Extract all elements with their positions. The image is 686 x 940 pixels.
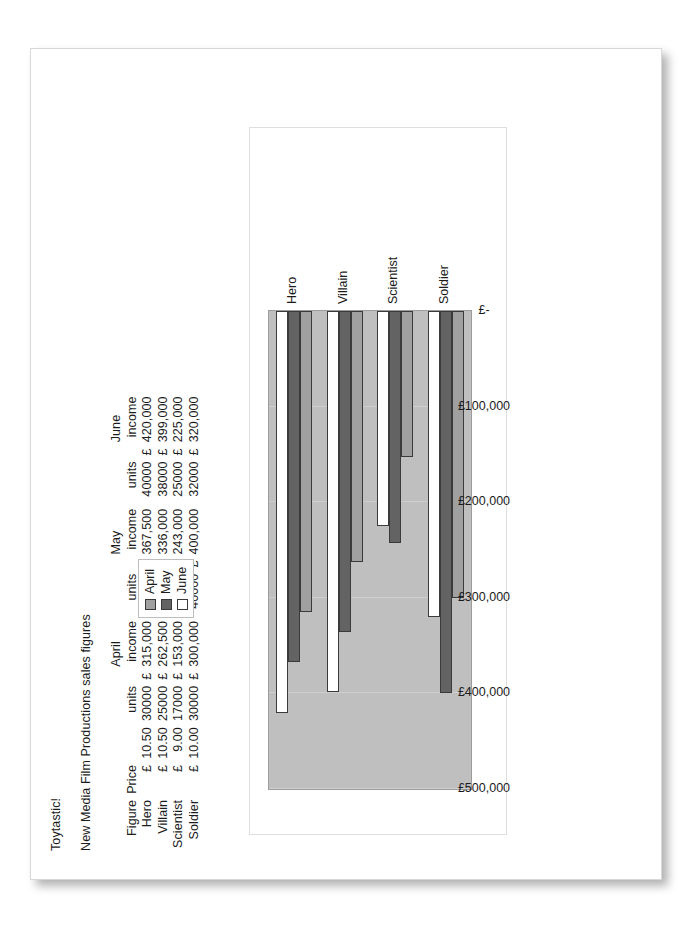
col-header-income-may: income [125, 506, 141, 558]
col-header-price: Price [125, 762, 141, 797]
axis-tick-label: £300,000 [444, 590, 524, 604]
cell-units-june: 38000 [156, 458, 172, 499]
legend-item-june[interactable]: June [175, 567, 189, 610]
cell-price-currency: £ [171, 762, 187, 797]
col-header-units-june: units [125, 458, 141, 499]
cell-income-june: 399,000 [156, 393, 172, 445]
cell-currency: £ [187, 445, 203, 458]
cell-income-june: 225,000 [171, 393, 187, 445]
cell-income-may: 367,500 [140, 506, 156, 558]
page-title: Toytastic! [49, 798, 63, 851]
category-label-hero: Hero [285, 214, 299, 304]
cell-income-april: 315,000 [140, 618, 156, 670]
cell-currency: £ [187, 670, 203, 683]
cell-income-june: 320,000 [187, 393, 203, 445]
month-header-june: June [109, 393, 125, 445]
paper-sheet: Toytastic! New Media Film Productions sa… [30, 48, 662, 880]
cell-income-may: 336,000 [156, 506, 172, 558]
legend-item-april[interactable]: April [143, 567, 157, 610]
cell-units-april: 30000 [187, 683, 203, 724]
bar-villain-april[interactable] [351, 311, 363, 562]
bar-scientist-may[interactable] [389, 311, 401, 543]
cell-price-currency: £ [140, 762, 156, 797]
bar-hero-june[interactable] [276, 311, 288, 713]
legend-swatch-may [161, 599, 172, 610]
legend-label-may: May [159, 570, 173, 594]
axis-tick-label: £400,000 [444, 685, 524, 699]
axis-tick-label: £100,000 [444, 399, 524, 413]
category-label-scientist: Scientist [386, 214, 400, 304]
cell-currency: £ [171, 670, 187, 683]
sales-figures-table: April May June Figure Price units [109, 393, 202, 851]
cell-income-april: 300,000 [187, 618, 203, 670]
rotated-document-content: Toytastic! New Media Film Productions sa… [31, 49, 661, 879]
table-row: Soldier £ 10.00 30000 £ 300,000 40000 £ … [187, 393, 203, 851]
bar-soldier-april[interactable] [452, 311, 464, 598]
axis-tick-label: £200,000 [444, 494, 524, 508]
bar-hero-april[interactable] [300, 311, 312, 612]
category-label-soldier: Soldier [437, 214, 451, 304]
page-subtitle: New Media Film Productions sales figures [79, 614, 93, 851]
cell-currency: £ [140, 670, 156, 683]
table-row: Villain £ 10.50 25000 £ 262,500 32000 £ … [156, 393, 172, 851]
category-label-villain: Villain [336, 214, 350, 304]
cell-units-april: 30000 [140, 683, 156, 724]
cell-figure: Hero [140, 797, 156, 851]
month-header-may: May [109, 506, 125, 558]
bar-scientist-june[interactable] [377, 311, 389, 526]
cell-figure: Villain [156, 797, 172, 851]
cell-price: 10.00 [187, 724, 203, 762]
legend-swatch-june [177, 599, 188, 610]
cell-income-may: 243,000 [171, 506, 187, 558]
cell-figure: Soldier [187, 797, 203, 851]
cell-units-june: 25000 [171, 458, 187, 499]
bar-soldier-june[interactable] [428, 311, 440, 617]
cell-figure: Scientist [171, 797, 187, 851]
cell-price-currency: £ [187, 762, 203, 797]
plot-area [268, 310, 472, 790]
bar-group-hero [269, 311, 320, 789]
table-month-header-row: April May June [109, 393, 125, 851]
bar-hero-may[interactable] [288, 311, 300, 662]
bar-group-scientist [370, 311, 421, 789]
chart-legend[interactable]: April May June [138, 559, 194, 618]
cell-currency: £ [156, 445, 172, 458]
bar-villain-may[interactable] [339, 311, 351, 632]
col-header-income-april: income [125, 618, 141, 670]
bar-scientist-april[interactable] [401, 311, 413, 457]
legend-swatch-april [145, 599, 156, 610]
cell-income-june: 420,000 [140, 393, 156, 445]
cell-income-may: 400,000 [187, 506, 203, 558]
cell-price: 10.50 [156, 724, 172, 762]
chart-container[interactable]: £-£100,000£200,000£300,000£400,000£500,0… [249, 127, 507, 835]
legend-label-april: April [143, 569, 157, 594]
cell-currency: £ [140, 445, 156, 458]
cell-currency: £ [156, 670, 172, 683]
bar-group-villain [320, 311, 371, 789]
table-column-header-row: Figure Price units income units income u… [125, 393, 141, 851]
cell-price-currency: £ [156, 762, 172, 797]
axis-tick-label: £500,000 [444, 781, 524, 795]
cell-currency: £ [171, 445, 187, 458]
col-header-income-june: income [125, 393, 141, 445]
cell-units-april: 17000 [171, 683, 187, 724]
bar-group-soldier [421, 311, 472, 789]
cell-units-june: 32000 [187, 458, 203, 499]
bar-villain-june[interactable] [327, 311, 339, 692]
col-header-units-april: units [125, 683, 141, 724]
table-row: Hero £ 10.50 30000 £ 315,000 35000 £ 367… [140, 393, 156, 851]
legend-item-may[interactable]: May [159, 567, 173, 610]
cell-units-april: 25000 [156, 683, 172, 724]
cell-price: 9.00 [171, 724, 187, 762]
col-header-figure: Figure [125, 797, 141, 851]
cell-price: 10.50 [140, 724, 156, 762]
axis-tick-label: £- [444, 303, 524, 317]
month-header-april: April [109, 618, 125, 670]
legend-label-june: June [175, 567, 189, 594]
table-row: Scientist £ 9.00 17000 £ 153,000 27000 £… [171, 393, 187, 851]
cell-units-june: 40000 [140, 458, 156, 499]
cell-income-april: 262,500 [156, 618, 172, 670]
cell-income-april: 153,000 [171, 618, 187, 670]
